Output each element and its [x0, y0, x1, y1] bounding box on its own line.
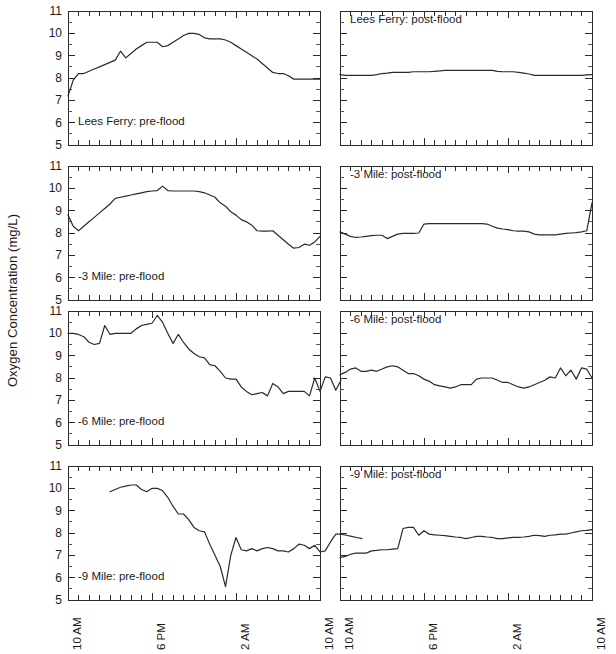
panel-caption: -9 Mile: post-flood	[350, 468, 441, 480]
y-tick-label: 8	[55, 71, 62, 85]
x-tick-label: 6 PM	[156, 623, 168, 650]
y-tick-label: 9	[55, 49, 62, 63]
panel-caption: -9 Mile: pre-flood	[78, 570, 164, 582]
y-tick-label: 5	[55, 138, 62, 152]
panel-minus-9-mile-post-flood: -9 Mile: post-flood	[300, 458, 600, 610]
y-tick-label: 10	[49, 26, 63, 40]
x-tick-label: 2 AM	[240, 624, 252, 650]
panel-minus-6-mile-pre-flood: 111098765-6 Mile: pre-flood	[28, 303, 328, 455]
series-line	[340, 70, 592, 75]
y-tick-label: 6	[55, 571, 62, 585]
x-axis-labels-col-0: 10 AM6 PM2 AM10 AM	[68, 604, 320, 654]
panel-caption: -6 Mile: post-flood	[350, 313, 441, 325]
x-tick-label: 10 AM	[72, 617, 84, 650]
y-tick-label: 6	[55, 116, 62, 130]
series-line	[340, 366, 592, 388]
series-line	[68, 33, 320, 96]
panel-caption: Lees Ferry: post-flood	[350, 13, 462, 25]
panel-caption: Lees Ferry: pre-flood	[78, 115, 185, 127]
y-axis-title: Oxygen Concentration (mg/L)	[0, 0, 26, 600]
panel-lees-ferry-post-flood: Lees Ferry: post-flood	[300, 3, 600, 155]
panel-caption: -3 Mile: pre-flood	[78, 270, 164, 282]
panel-lees-ferry-pre-flood: 111098765Lees Ferry: pre-flood	[28, 3, 328, 155]
panel-minus-9-mile-pre-flood: 111098765-9 Mile: pre-flood	[28, 458, 328, 610]
series-line	[340, 203, 592, 239]
y-tick-label: 11	[50, 4, 63, 18]
y-tick-label: 8	[55, 526, 62, 540]
x-tick-label: 10 AM	[596, 617, 608, 650]
y-tick-label: 8	[55, 371, 62, 385]
y-tick-label: 11	[50, 459, 63, 473]
y-tick-label: 10	[49, 181, 63, 195]
y-tick-label: 11	[50, 304, 63, 318]
panel-caption: -3 Mile: post-flood	[350, 168, 441, 180]
y-tick-label: 9	[55, 204, 62, 218]
panel-minus-6-mile-post-flood: -6 Mile: post-flood	[300, 303, 600, 455]
y-tick-label: 9	[55, 504, 62, 518]
series-line	[68, 186, 320, 248]
panel-minus-3-mile-post-flood: -3 Mile: post-flood	[300, 158, 600, 310]
y-tick-label: 7	[55, 248, 62, 262]
y-tick-label: 7	[55, 93, 62, 107]
y-tick-label: 6	[55, 271, 62, 285]
y-tick-label: 11	[50, 159, 63, 173]
y-tick-label: 7	[55, 548, 62, 562]
y-axis-title-text: Oxygen Concentration (mg/L)	[6, 213, 21, 386]
panel-caption: -6 Mile: pre-flood	[78, 415, 164, 427]
y-tick-label: 6	[55, 416, 62, 430]
panel-minus-3-mile-pre-flood: 111098765-3 Mile: pre-flood	[28, 158, 328, 310]
x-axis-labels-col-1: 10 AM6 PM2 AM10 AM	[340, 604, 592, 654]
series-line	[340, 527, 592, 557]
y-tick-label: 8	[55, 226, 62, 240]
x-tick-label: 10 AM	[324, 617, 336, 650]
y-tick-label: 10	[49, 326, 63, 340]
y-tick-label: 7	[55, 393, 62, 407]
y-tick-label: 10	[49, 481, 63, 495]
x-tick-label: 10 AM	[344, 617, 356, 650]
y-tick-label: 9	[55, 349, 62, 363]
x-tick-label: 2 AM	[512, 624, 524, 650]
y-tick-label: 5	[55, 438, 62, 452]
y-tick-label: 5	[55, 593, 62, 607]
x-tick-label: 6 PM	[428, 623, 440, 650]
